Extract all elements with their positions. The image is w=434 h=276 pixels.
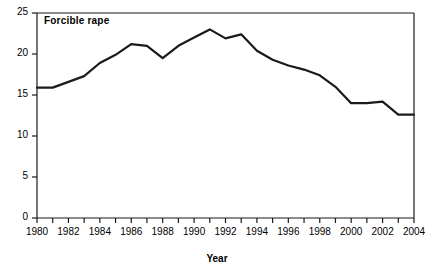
y-axis-ticks [32,13,37,218]
x-tick-label: 2004 [394,226,434,237]
x-axis-ticks [37,218,414,223]
series-line-forcible-rape [37,29,414,114]
series-label: Forcible rape [44,15,109,26]
chart-figure: Forcible rape 0510152025 198019821984198… [0,0,434,276]
y-tick-label: 0 [0,211,28,222]
x-axis-title: Year [0,253,434,264]
y-tick-label: 20 [0,47,28,58]
y-tick-label: 5 [0,170,28,181]
data-series-group [37,29,414,114]
axes [37,13,414,218]
y-tick-label: 25 [0,6,28,17]
y-tick-label: 10 [0,129,28,140]
y-tick-label: 15 [0,88,28,99]
